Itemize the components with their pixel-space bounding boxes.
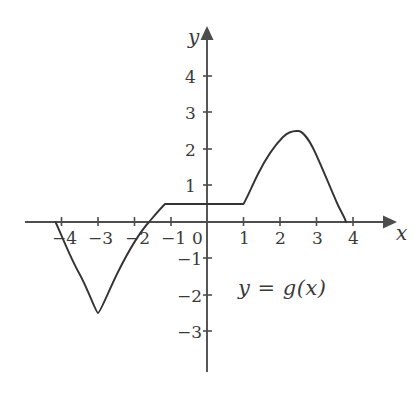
x-tick-label--4: −4	[52, 230, 77, 247]
y-tick-label--3: −3	[177, 324, 202, 341]
y-tick-label-4: 4	[185, 69, 196, 86]
y-tick-label-1: 1	[185, 178, 196, 195]
x-tick-label--1: −1	[161, 230, 186, 247]
x-tick-label-0: 0	[192, 230, 203, 247]
x-tick-label-2: 2	[275, 230, 286, 247]
y-tick-label-3: 3	[185, 105, 196, 122]
graph-figure: −4 −3 −2 −1 0 1 2 3 4 4 3 2 1 −1 −2 −3 x…	[0, 0, 414, 393]
x-tick-label-3: 3	[312, 230, 323, 247]
y-tick-label--2: −2	[177, 288, 202, 305]
x-tick-label--3: −3	[88, 230, 113, 247]
x-tick-label--2: −2	[125, 230, 150, 247]
coordinate-plane	[0, 0, 414, 393]
y-axis-arrow-icon	[201, 26, 214, 40]
x-tick-label-4: 4	[348, 230, 359, 247]
x-axis-arrow-icon	[383, 216, 397, 229]
x-axis-label: x	[396, 223, 407, 243]
y-axis-label: y	[188, 27, 199, 47]
y-tick-label--1: −1	[177, 251, 202, 268]
x-tick-label-1: 1	[239, 230, 250, 247]
y-tick-label-2: 2	[185, 142, 196, 159]
function-label: y = g(x)	[238, 278, 326, 299]
